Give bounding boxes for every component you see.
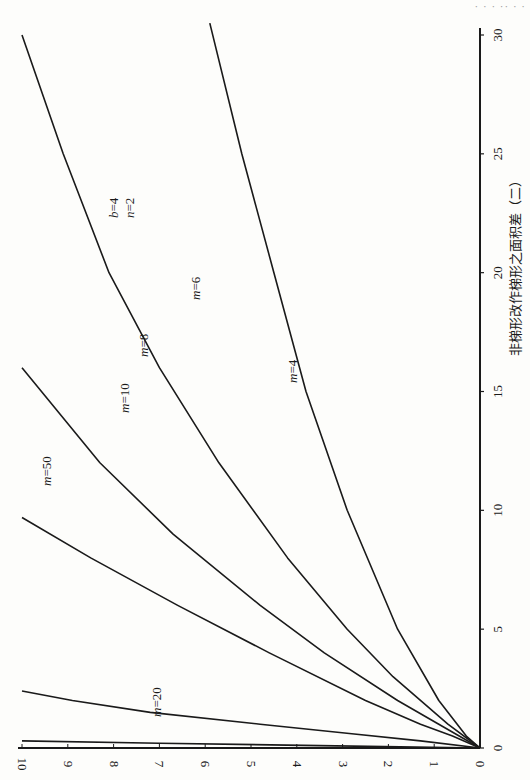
- y-tick-label: 3: [336, 761, 351, 768]
- curve-label: m=6: [188, 276, 203, 300]
- chart: 051015202530012345678910 m=4m=6m=8m=10m=…: [0, 0, 530, 780]
- parameters-label: b=4n=2: [106, 197, 137, 218]
- y-tick-label: 2: [381, 761, 396, 768]
- y-tick-label: 4: [290, 761, 305, 768]
- x-tick-label: 30: [490, 29, 505, 42]
- parameter-label: b=4: [106, 197, 121, 218]
- axes: 051015202530012345678910: [15, 28, 505, 771]
- curve-label: m=8: [136, 334, 151, 357]
- y-tick-label: 5: [244, 761, 259, 768]
- curve-label: m=4: [285, 359, 300, 383]
- curve-m-4: [210, 23, 480, 748]
- x-tick-label: 0: [490, 745, 505, 752]
- y-tick-label: 0: [473, 761, 488, 768]
- y-tick-label: 9: [61, 761, 76, 768]
- y-tick-label: 6: [198, 761, 213, 768]
- curve-m-6: [22, 35, 480, 748]
- y-tick-label: 7: [152, 761, 167, 768]
- chart-caption-text: 非梯形改作梯形之面积差（二）: [508, 174, 523, 356]
- x-tick-label: 20: [490, 266, 505, 279]
- x-tick-label: 25: [490, 147, 505, 160]
- curve-label: m=20: [149, 687, 164, 717]
- y-tick-label: 10: [15, 758, 30, 771]
- x-tick-label: 15: [490, 385, 505, 398]
- curve-label: m=50: [39, 456, 54, 486]
- curve-labels: m=4m=6m=8m=10m=20m=50: [39, 276, 300, 717]
- y-tick-label: 8: [107, 761, 122, 768]
- curve-m-10: [22, 518, 480, 749]
- y-tick-label: 1: [427, 761, 442, 768]
- chart-caption: 非梯形改作梯形之面积差（二）: [508, 174, 523, 356]
- x-tick-label: 10: [490, 504, 505, 517]
- curve-label: m=10: [117, 383, 132, 413]
- x-tick-label: 5: [490, 626, 505, 633]
- curves: [22, 23, 480, 748]
- parameter-label: n=2: [122, 198, 137, 218]
